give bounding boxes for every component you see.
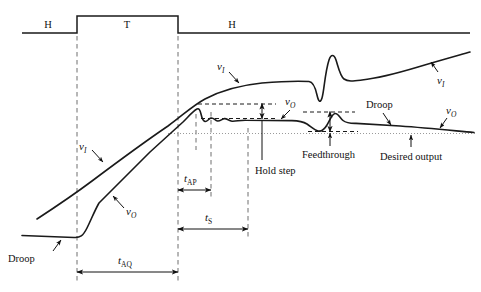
vi-left-leader: [92, 150, 103, 162]
vo-mid-leader: [281, 110, 290, 119]
droop-right-leader: [383, 113, 391, 125]
sample-and-hold-timing-figure: H T H vI vO Droop: [0, 0, 481, 292]
feedthrough-label: Feedthrough: [302, 149, 356, 160]
clock-phase-hold-left: H: [44, 19, 52, 30]
input-signal-trace-vi: [37, 52, 470, 219]
vi-right-label: vI: [437, 74, 445, 89]
vi-left-label: vI: [79, 140, 87, 155]
desired-output-label: Desired output: [380, 151, 442, 162]
vo-right-leader: [440, 118, 447, 128]
vi-mid-label: vI: [217, 60, 225, 75]
feedthrough-measurement: [303, 112, 358, 147]
clock-phase-hold-right: H: [228, 19, 236, 30]
timing-diagram-canvas: H T H vI vO Droop: [0, 0, 481, 292]
droop-left-label: Droop: [8, 253, 35, 264]
clock-waveform: [22, 16, 470, 33]
vo-left-label: vO: [126, 205, 137, 220]
t-ap-label: tAP: [184, 172, 197, 187]
vi-mid-leader: [229, 72, 239, 83]
vo-mid-label: vO: [285, 95, 296, 110]
hold-step-measurement: [198, 104, 276, 120]
droop-left-leader: [53, 240, 61, 251]
droop-right-label: Droop: [366, 99, 393, 110]
vi-right-leader: [431, 62, 438, 72]
clock-trace: [22, 16, 470, 33]
t-aq-label: tAQ: [118, 254, 132, 269]
vo-right-label: vO: [446, 104, 457, 119]
hold-step-label: Hold step: [255, 165, 296, 176]
t-s-label: tS: [205, 211, 212, 226]
vo-left-leader: [113, 196, 124, 208]
clock-phase-track: T: [124, 19, 131, 30]
